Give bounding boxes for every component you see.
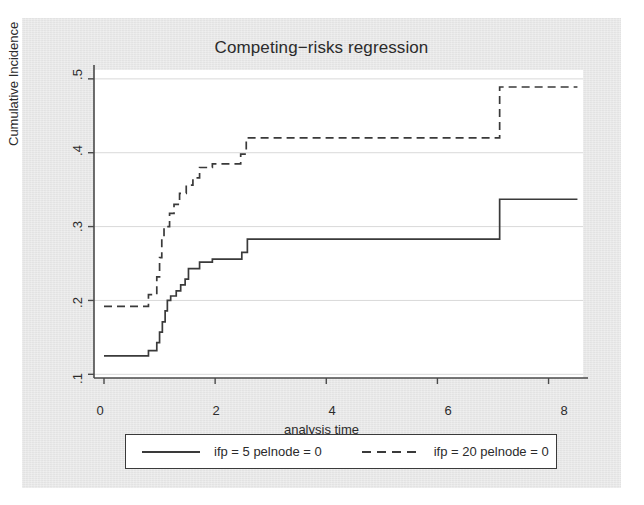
y-tick-label-4: .4 [70, 138, 85, 164]
series-layer [104, 87, 577, 356]
legend-key-dashed-line-icon [360, 446, 422, 458]
legend-label-series-1: ifp = 5 pelnode = 0 [214, 444, 322, 459]
y-tick-label-3: .3 [70, 214, 85, 240]
legend-entry-dashed: ifp = 20 pelnode = 0 [360, 435, 549, 468]
chart-title: Competing−risks regression [22, 38, 621, 58]
x-tick-label-0: 0 [88, 403, 112, 418]
chart-legend: ifp = 5 pelnode = 0 ifp = 20 pelnode = 0 [125, 434, 557, 469]
axis-lines [94, 65, 588, 378]
x-tick-label-4: 4 [320, 403, 344, 418]
axis-ticks [88, 79, 549, 384]
legend-label-series-2: ifp = 20 pelnode = 0 [434, 444, 549, 459]
legend-entry-solid: ifp = 5 pelnode = 0 [140, 435, 322, 468]
series-line-1 [104, 199, 577, 356]
plot-svg [22, 18, 621, 433]
x-tick-label-6: 6 [436, 403, 460, 418]
legend-key-solid-line-icon [140, 446, 202, 458]
y-tick-label-1: .1 [70, 366, 85, 392]
x-tick-label-2: 2 [204, 403, 228, 418]
stata-graph-figure: Competing−risks regression Cumulative In… [22, 18, 621, 488]
y-tick-label-5: .5 [70, 62, 85, 88]
y-tick-label-2: .2 [70, 290, 85, 316]
y-axis-title: Cumulative Incidence [6, 22, 21, 146]
screenshot-root: Competing−risks regression Cumulative In… [0, 0, 644, 505]
x-tick-label-8: 8 [552, 403, 576, 418]
series-line-2 [104, 87, 577, 306]
